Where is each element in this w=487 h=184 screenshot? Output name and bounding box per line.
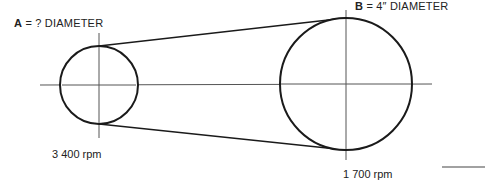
pulley-a-speed: 3 400 rpm [52,148,102,160]
pulley-a-letter: A [14,17,22,29]
pulley-a-diameter-text: = ? DIAMETER [22,17,103,29]
pulley-b-letter: B [355,0,363,12]
pulley-b-speed: 1 700 rpm [343,168,393,180]
pulley-b-diameter-text: = 4″ DIAMETER [363,0,448,12]
pulley-b-label: B = 4″ DIAMETER [355,0,448,12]
pulley-a-label: A = ? DIAMETER [14,17,103,29]
